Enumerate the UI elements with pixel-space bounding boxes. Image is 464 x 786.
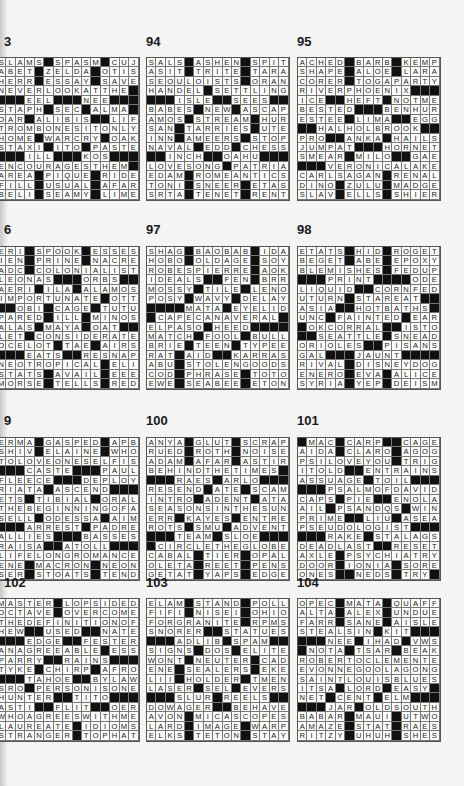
letter-cell: T xyxy=(232,504,241,513)
letter-cell: A xyxy=(270,351,279,360)
letter-cell: E xyxy=(147,665,156,674)
letter-cell: A xyxy=(317,542,326,551)
letter-cell: E xyxy=(223,665,232,674)
letter-cell: H xyxy=(213,466,222,475)
black-square xyxy=(129,485,138,494)
letter-cell: R xyxy=(35,646,44,655)
letter-cell: S xyxy=(82,58,91,67)
letter-cell: U xyxy=(156,447,165,456)
letter-cell: O xyxy=(54,457,63,466)
letter-cell: L xyxy=(326,457,335,466)
letter-cell: L xyxy=(147,675,156,684)
black-square xyxy=(63,152,72,161)
black-square xyxy=(260,476,269,485)
letter-cell: A xyxy=(307,495,316,504)
letter-cell: S xyxy=(185,379,194,388)
letter-cell: N xyxy=(63,504,72,513)
letter-cell: S xyxy=(411,514,420,523)
letter-cell: P xyxy=(251,599,260,608)
letter-cell: E xyxy=(82,608,91,617)
black-square xyxy=(147,96,156,105)
letter-cell: R xyxy=(392,247,401,256)
letter-cell: Q xyxy=(392,599,401,608)
letter-cell: R xyxy=(402,722,411,731)
letter-cell: I xyxy=(270,457,279,466)
letter-cell: T xyxy=(101,86,110,95)
black-square xyxy=(270,693,279,702)
letter-cell: E xyxy=(35,504,44,513)
letter-cell: N xyxy=(355,693,364,702)
letter-cell: S xyxy=(279,171,288,180)
letter-cell: N xyxy=(336,294,345,303)
letter-cell: O xyxy=(411,665,420,674)
letter-cell: E xyxy=(194,379,203,388)
letter-cell: V xyxy=(364,370,373,379)
black-square xyxy=(223,351,232,360)
black-square xyxy=(147,304,156,313)
letter-cell: D xyxy=(156,275,165,284)
letter-cell: S xyxy=(251,58,260,67)
letter-cell: E xyxy=(25,551,34,560)
letter-cell: A xyxy=(82,67,91,76)
letter-cell: T xyxy=(317,608,326,617)
letter-cell: R xyxy=(392,466,401,475)
letter-cell: I xyxy=(307,86,316,95)
letter-cell: K xyxy=(411,124,420,133)
letter-cell: E xyxy=(223,190,232,199)
letter-cell: S xyxy=(166,294,175,303)
letter-cell: L xyxy=(147,722,156,731)
letter-cell: A xyxy=(204,495,213,504)
letter-cell: N xyxy=(402,608,411,617)
letter-cell: S xyxy=(35,247,44,256)
black-square xyxy=(336,351,345,360)
black-square xyxy=(241,618,250,627)
black-square xyxy=(213,96,222,105)
letter-cell: D xyxy=(411,266,420,275)
letter-cell: H xyxy=(345,96,354,105)
letter-cell: I xyxy=(374,514,383,523)
letter-cell: S xyxy=(120,646,129,655)
letter-cell: P xyxy=(345,495,354,504)
letter-cell: I xyxy=(392,86,401,95)
letter-cell: S xyxy=(204,476,213,485)
black-square xyxy=(54,599,63,608)
letter-cell: T xyxy=(120,143,129,152)
letter-cell: E xyxy=(260,684,269,693)
letter-cell: N xyxy=(223,504,232,513)
letter-cell: B xyxy=(374,124,383,133)
letter-cell: Y xyxy=(421,570,430,579)
letter-cell: R xyxy=(232,665,241,674)
letter-cell: A xyxy=(232,247,241,256)
black-square xyxy=(251,256,260,265)
letter-cell: R xyxy=(175,627,184,636)
letter-cell: A xyxy=(35,115,44,124)
letter-cell: F xyxy=(110,665,119,674)
solution-grid: OPECMATAQUAFFALTAALEXUNDUEFARRSANEAISLES… xyxy=(297,598,441,742)
letter-cell: D xyxy=(336,466,345,475)
letter-cell: D xyxy=(232,599,241,608)
solution-grid: ETATSHIDROGETBEGETABEEPOXYBLEMISHESFEDUP… xyxy=(297,246,441,390)
letter-cell: O xyxy=(307,561,316,570)
letter-cell: E xyxy=(364,495,373,504)
letter-cell: A xyxy=(355,504,364,513)
letter-cell: A xyxy=(213,370,222,379)
letter-cell: S xyxy=(392,190,401,199)
black-square xyxy=(175,675,184,684)
letter-cell: E xyxy=(430,656,439,665)
letter-cell: L xyxy=(364,514,373,523)
black-square xyxy=(279,476,288,485)
letter-cell: S xyxy=(430,637,439,646)
letter-cell: S xyxy=(298,379,307,388)
letter-cell: O xyxy=(156,656,165,665)
letter-cell: R xyxy=(166,722,175,731)
letter-cell: I xyxy=(44,495,53,504)
black-square xyxy=(54,656,63,665)
letter-cell: O xyxy=(392,143,401,152)
letter-cell: E xyxy=(279,646,288,655)
letter-cell: E xyxy=(355,96,364,105)
letter-cell: E xyxy=(421,285,430,294)
letter-cell: I xyxy=(421,504,430,513)
letter-cell: S xyxy=(241,438,250,447)
letter-cell: D xyxy=(175,447,184,456)
letter-cell: P xyxy=(298,457,307,466)
